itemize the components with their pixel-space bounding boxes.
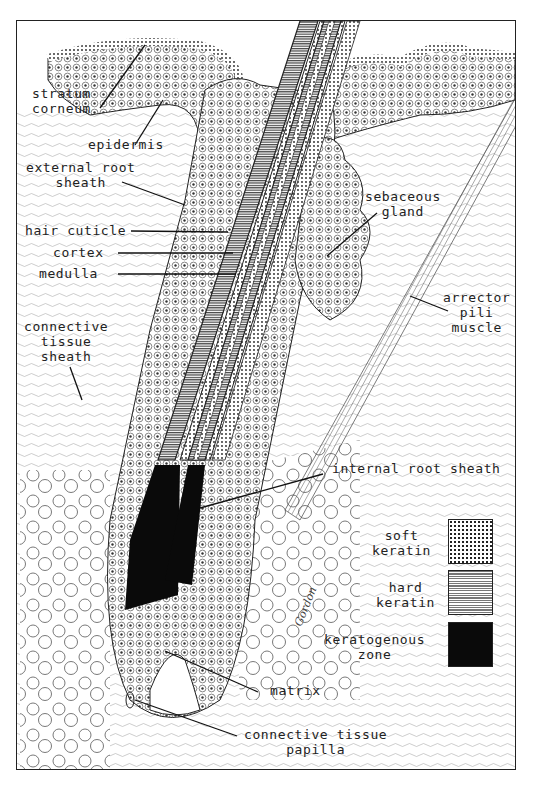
label-line: stratum [32, 86, 91, 101]
label-line: sheath [26, 175, 136, 190]
legend-swatch-keratogenous-zone [448, 622, 493, 667]
label-line: keratogenous [324, 632, 425, 647]
label-connective-tissue-sheath: connective tissue sheath [24, 319, 108, 364]
label-arrector-pili-muscle: arrector pili muscle [443, 290, 510, 335]
label-line: pili [443, 305, 510, 320]
label-line: soft [372, 528, 431, 543]
label-line: sheath [24, 349, 108, 364]
label-line: arrector [443, 290, 510, 305]
label-hair-cuticle: hair cuticle [25, 223, 126, 238]
label-line: zone [324, 647, 425, 662]
legend-swatch-soft-keratin [448, 519, 493, 564]
label-line: external root [26, 160, 136, 175]
legend-label-soft-keratin: soft keratin [372, 528, 431, 558]
label-line: connective [24, 319, 108, 334]
label-medulla: medulla [39, 266, 98, 281]
legend-label-hard-keratin: hard keratin [376, 580, 435, 610]
legend-label-keratogenous-zone: keratogenous zone [324, 632, 425, 662]
label-line: gland [365, 204, 441, 219]
adipose-tissue-left [20, 470, 110, 770]
label-line: muscle [443, 320, 510, 335]
hair-follicle-illustration [0, 0, 537, 790]
label-line: papilla [244, 742, 387, 757]
label-line: hard [376, 580, 435, 595]
label-line: keratin [372, 543, 431, 558]
label-connective-tissue-papilla: connective tissue papilla [244, 727, 387, 757]
label-matrix: matrix [270, 683, 321, 698]
legend-swatch-hard-keratin [448, 570, 493, 615]
label-line: keratin [376, 595, 435, 610]
label-line: sebaceous [365, 189, 441, 204]
label-internal-root-sheath: internal root sheath [332, 461, 501, 476]
label-epidermis: epidermis [88, 137, 164, 152]
label-line: corneum [32, 101, 91, 116]
label-line: tissue [24, 334, 108, 349]
label-external-root-sheath: external root sheath [26, 160, 136, 190]
label-line: connective tissue [244, 727, 387, 742]
label-sebaceous-gland: sebaceous gland [365, 189, 441, 219]
label-stratum-corneum: stratum corneum [32, 86, 91, 116]
label-cortex: cortex [53, 245, 104, 260]
